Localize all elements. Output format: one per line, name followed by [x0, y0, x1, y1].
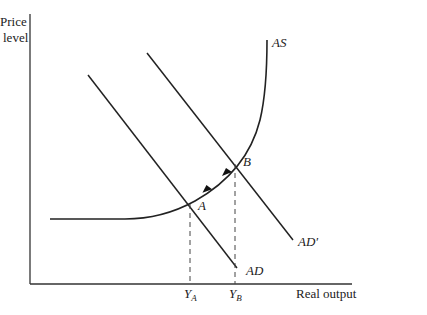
x-axis-label: Real output: [296, 286, 357, 301]
ya-tick-label: YA: [184, 286, 197, 303]
ad-curve: [88, 75, 237, 268]
ad-label: AD: [245, 263, 264, 278]
point-a-label: A: [197, 198, 206, 213]
y-axis-label: level: [3, 30, 29, 45]
yb-tick-label: YB: [229, 286, 242, 303]
as-label: AS: [271, 35, 287, 50]
y-axis-label: Price: [0, 14, 27, 29]
ad-prime-label: AD′: [297, 234, 318, 249]
as-ad-diagram: Price level Real output AS AD AD′ A B YA…: [0, 0, 427, 315]
point-b-label: B: [243, 154, 251, 169]
